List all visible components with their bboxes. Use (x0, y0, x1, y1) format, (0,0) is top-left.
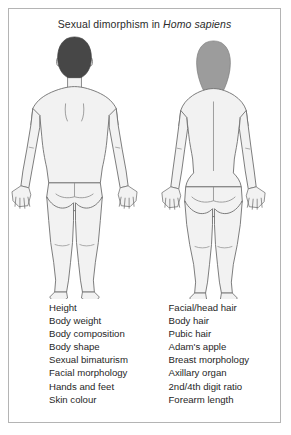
trait-item: Sexual bimaturism (49, 353, 145, 366)
trait-item: Body shape (49, 340, 145, 353)
male-hand-left (12, 186, 31, 209)
female-arm-right (239, 110, 256, 188)
trait-item: Hands and feet (49, 380, 145, 393)
trait-item: Breast morphology (169, 353, 281, 366)
female-hair (197, 41, 231, 95)
female-hand-left (162, 187, 181, 210)
female-figure (162, 41, 265, 299)
trait-item: Body hair (169, 314, 281, 327)
female-foot-right (220, 293, 237, 299)
figure-title: Sexual dimorphism in Homo sapiens (9, 18, 280, 30)
trait-item: Height (49, 301, 145, 314)
trait-item: Body composition (49, 327, 145, 340)
trait-item: Axillary organ (169, 366, 281, 379)
male-torso (31, 87, 118, 183)
male-foot-right (81, 292, 99, 299)
trait-lists: Height Body weight Body composition Body… (9, 301, 280, 406)
trait-item: Facial morphology (49, 366, 145, 379)
figure-title-species: Homo sapiens (163, 18, 231, 30)
male-hair (58, 37, 92, 78)
male-hand-right (118, 186, 137, 209)
figure-title-prefix: Sexual dimorphism in (58, 18, 163, 30)
male-arm-left (21, 108, 40, 187)
human-figures-illustration (9, 31, 280, 299)
figures-area (9, 31, 280, 299)
trait-item: Pubic hair (169, 327, 281, 340)
figure-panel: Sexual dimorphism in Homo sapiens (8, 8, 281, 423)
trait-item: 2nd/4th digit ratio (169, 380, 281, 393)
female-arm-left (171, 110, 188, 188)
trait-item: Skin colour (49, 393, 145, 406)
trait-column-female: Facial/head hair Body hair Pubic hair Ad… (145, 301, 281, 406)
trait-item: Adam's apple (169, 340, 281, 353)
female-foot-left (190, 293, 207, 299)
male-figure (12, 37, 137, 299)
male-foot-left (50, 292, 68, 299)
trait-column-male: Height Body weight Body composition Body… (9, 301, 145, 406)
trait-item: Forearm length (169, 393, 281, 406)
trait-item: Facial/head hair (169, 301, 281, 314)
female-hand-right (246, 187, 265, 210)
trait-item: Body weight (49, 314, 145, 327)
